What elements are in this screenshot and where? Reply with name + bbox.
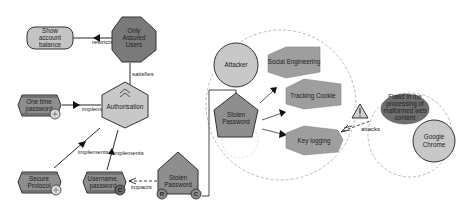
edge-impacts: impacts xyxy=(128,178,157,190)
node-label: Assured xyxy=(122,34,146,41)
node-label: Social Engineering xyxy=(268,58,321,66)
svg-text:C: C xyxy=(194,191,199,197)
node-username-password[interactable]: Username, password C xyxy=(83,172,126,195)
node-label: Key logging xyxy=(298,137,331,145)
edge-label-implements-username: implements xyxy=(113,150,144,156)
node-secure-protocol[interactable]: Secure Protocol xyxy=(18,172,61,195)
node-social-engineering[interactable]: Social Engineering xyxy=(268,47,321,78)
edge-implements-secure: implements xyxy=(54,128,109,168)
node-attacker[interactable]: Attacker xyxy=(214,43,258,87)
node-flaws[interactable]: Flaws in the processing of malformed web… xyxy=(381,93,429,124)
node-tracking-cookie[interactable]: Tracking Cookie xyxy=(286,79,341,109)
node-label: password xyxy=(26,105,53,113)
node-label: Secure xyxy=(29,175,49,182)
node-only-assured-users[interactable]: Only Assured Users xyxy=(112,17,156,62)
node-authorisation[interactable]: Authorisation xyxy=(102,82,148,128)
node-label: Username, xyxy=(88,175,119,182)
node-label: Authorisation xyxy=(107,103,144,110)
edge-implements-username: implements xyxy=(107,130,144,170)
node-label: Attacker xyxy=(224,61,247,68)
node-label: Chrome xyxy=(423,141,446,148)
edge-to-tracking-cookie xyxy=(262,109,286,120)
node-key-logging[interactable]: Key logging xyxy=(286,126,343,155)
edge-attacks: attacks xyxy=(341,121,380,132)
node-label: malformed web xyxy=(383,107,427,114)
edge-to-social-engineering xyxy=(260,87,277,103)
node-label: Users xyxy=(126,41,142,48)
node-label: balance xyxy=(39,41,62,48)
node-label: Flaws in the xyxy=(388,93,422,100)
node-stolen-password-left[interactable]: Stolen Password R C xyxy=(157,152,201,199)
edge-label-satisfies: satisfies xyxy=(132,71,154,77)
svg-text:C: C xyxy=(118,187,123,193)
node-label: One time xyxy=(26,98,52,105)
node-label: Tracking Cookie xyxy=(290,92,336,100)
svg-text:R: R xyxy=(160,191,165,197)
node-stolen-password-center[interactable]: Stolen Password xyxy=(214,93,258,137)
edge-label-implements-secure: implements xyxy=(78,149,109,155)
node-show-account-balance[interactable]: Show account balance xyxy=(27,27,73,49)
node-label: Protocol xyxy=(27,182,50,189)
edge-label-restricts: restricts xyxy=(92,39,113,45)
node-label: Google xyxy=(424,133,445,141)
node-label: Password xyxy=(222,118,250,125)
node-label: Stolen xyxy=(169,174,187,181)
node-label: account xyxy=(39,34,61,41)
node-label: content xyxy=(395,114,416,121)
diagram-canvas: restricts satisfies implements implement… xyxy=(0,0,473,213)
edge-to-key-logging xyxy=(262,129,287,138)
node-one-time-password[interactable]: One time password xyxy=(18,95,61,119)
warning-icon xyxy=(352,104,368,118)
edge-label-impacts: impacts xyxy=(131,184,152,190)
node-label: password xyxy=(90,182,117,190)
edge-label-attacks: attacks xyxy=(361,126,380,132)
node-label: Password xyxy=(164,181,192,188)
edge-restricts: restricts xyxy=(73,34,113,45)
node-label: Stolen xyxy=(227,111,245,118)
edge-satisfies: satisfies xyxy=(130,63,154,85)
node-label: Show xyxy=(42,27,58,34)
node-google-chrome[interactable]: Google Chrome xyxy=(413,120,455,162)
